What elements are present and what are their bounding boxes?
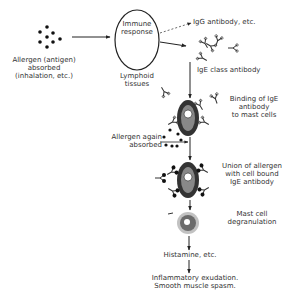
union-line1: Union of allergen [218, 162, 286, 170]
allergen-again-label: Allergen again absorbed [110, 133, 162, 149]
ige-label: IgE class antibody [197, 66, 261, 74]
allergen-initial-line3: (inhalation, etc.) [6, 72, 82, 80]
mast-cell-icon [158, 85, 221, 136]
degranulation-label: Mast cell degranulation [222, 210, 282, 226]
union-line2: with cell bound [218, 170, 286, 178]
union-label: Union of allergen with cell bound IgE an… [218, 162, 286, 186]
arrow-immune-to-igg [160, 23, 191, 33]
immune-response-label: Immune response [117, 20, 157, 36]
lymphoid-line1: Lymphoid [115, 72, 159, 80]
immune-line1: Immune [117, 20, 157, 28]
allergen-again-line1: Allergen again [110, 133, 162, 141]
mast-cell-bound-icon [155, 162, 211, 198]
binding-line2: antibody [222, 103, 286, 111]
immune-line2: response [117, 28, 157, 36]
lymphoid-label: Lymphoid tissues [115, 72, 159, 88]
igg-label: IgG antibody, etc. [193, 18, 255, 26]
allergen-dots-icon [38, 25, 62, 49]
outcome-line1: Inflammatory exudation. [150, 274, 240, 282]
degranulated-cell-icon [168, 212, 199, 234]
union-line3: IgE antibody [218, 178, 286, 186]
binding-label: Binding of IgE antibody to mast cells [222, 95, 286, 119]
allergen-initial-line2: absorbed [6, 64, 82, 72]
allergen-again-line2: absorbed [110, 141, 162, 149]
binding-line1: Binding of IgE [222, 95, 286, 103]
allergen-again-dots-icon [162, 128, 182, 147]
immune-response-node [115, 10, 159, 70]
histamine-label: Histamine, etc. [160, 251, 220, 259]
allergen-initial-line1: Allergen (antigen) [6, 56, 82, 64]
binding-line3: to mast cells [222, 111, 286, 119]
outcome-label: Inflammatory exudation. Smooth muscle sp… [150, 274, 240, 290]
degranulation-line1: Mast cell [222, 210, 282, 218]
allergen-initial-label: Allergen (antigen) absorbed (inhalation,… [6, 56, 82, 80]
lymphoid-line2: tissues [115, 80, 159, 88]
arrow-immune-to-ige [160, 42, 186, 46]
degranulation-line2: degranulation [222, 218, 282, 226]
antibody-y-icon [196, 34, 238, 64]
outcome-line2: Smooth muscle spasm. [150, 282, 240, 290]
